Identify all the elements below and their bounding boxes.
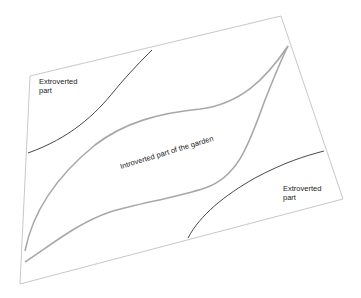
extroverted-label-bottom-right-line2: part: [283, 193, 297, 202]
extroverted-label-top-left-line1: Extroverted: [39, 77, 77, 86]
extroverted-label-bottom-right-line1: Extroverted: [283, 184, 321, 193]
garden-zoning-diagram: Extroverted part Introverted part of the…: [0, 0, 361, 298]
extroverted-label-top-left-line2: part: [39, 86, 53, 95]
